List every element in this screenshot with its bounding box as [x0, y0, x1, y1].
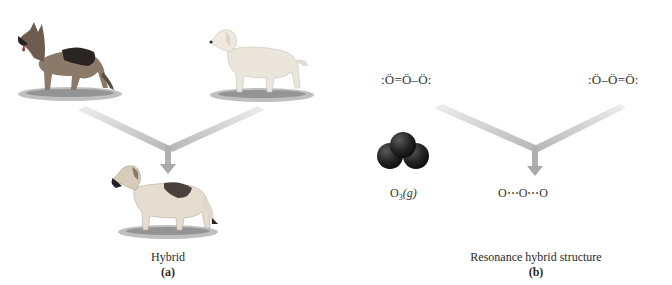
ozone-formula-label: O3(g): [390, 186, 417, 202]
hybrid-label: Hybrid: [68, 250, 268, 265]
lewis-structure-right: :Ö–Ö=Ö:: [588, 72, 639, 88]
panel-a-hybrid-dogs: Hybrid (a): [0, 0, 336, 285]
panel-b-letter: (b): [436, 265, 636, 280]
resonance-arrow-icon: [434, 104, 626, 176]
ozone-molecule-model-icon: [377, 132, 429, 169]
panel-b-caption: Resonance hybrid structure (b): [436, 250, 636, 280]
resonance-hybrid-formula: O⋯O⋯O: [498, 186, 548, 201]
german-shepherd-dog-icon: [18, 22, 122, 101]
panel-a-graphics: [0, 0, 336, 285]
panel-a-caption: Hybrid (a): [68, 250, 268, 280]
lewis-structure-left: :Ö=Ö–Ö:: [381, 72, 432, 88]
panel-b-graphics: [336, 0, 672, 285]
panel-a-letter: (a): [68, 265, 268, 280]
hybrid-dog-icon: [112, 166, 219, 239]
panel-b-ozone-resonance: :Ö=Ö–Ö: :Ö–Ö=Ö: O3(g) O⋯O⋯O Resonance hy…: [336, 0, 672, 285]
formula-state: (g): [403, 186, 417, 200]
combine-arrow-icon: [78, 106, 264, 174]
formula-element: O: [390, 186, 399, 200]
labrador-dog-icon: [209, 30, 314, 102]
resonance-hybrid-label: Resonance hybrid structure: [436, 250, 636, 265]
